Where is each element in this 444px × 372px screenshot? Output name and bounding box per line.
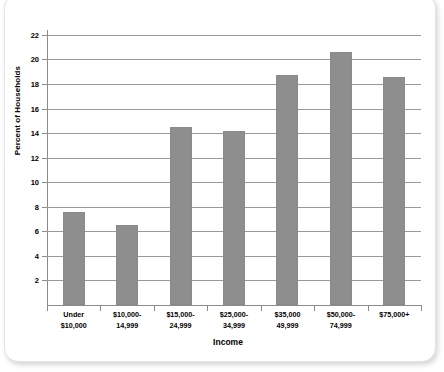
plot-area (47, 30, 421, 305)
bar (276, 75, 298, 305)
x-tick-label-line: 74,999 (310, 321, 372, 332)
y-tick-mark (42, 35, 47, 36)
y-tick-label: 10 (15, 178, 39, 187)
y-tick-mark (42, 231, 47, 232)
gridline (47, 84, 421, 85)
gridline (47, 109, 421, 110)
x-tick-label: $75,000+ (363, 310, 425, 321)
y-tick-mark (42, 280, 47, 281)
y-tick-mark (42, 133, 47, 134)
y-tick-mark (42, 158, 47, 159)
bar (116, 225, 138, 305)
bar (330, 52, 352, 305)
y-axis-line (47, 30, 48, 305)
y-tick-label: 14 (15, 129, 39, 138)
y-tick-mark (42, 182, 47, 183)
y-tick-label: 12 (15, 154, 39, 163)
y-tick-label: 4 (15, 252, 39, 261)
bar-chart-figure: Percent of Households Income 24681012141… (0, 0, 444, 372)
gridline (47, 35, 421, 36)
y-tick-mark (42, 84, 47, 85)
bar (63, 212, 85, 305)
gridline (47, 59, 421, 60)
y-tick-label: 8 (15, 203, 39, 212)
bar (383, 77, 405, 305)
x-axis-title: Income (47, 337, 409, 347)
y-tick-label: 18 (15, 80, 39, 89)
y-tick-label: 20 (15, 55, 39, 64)
x-tick-label-line: $75,000+ (363, 310, 425, 321)
bar (223, 131, 245, 305)
y-tick-label: 16 (15, 105, 39, 114)
x-axis-line (47, 305, 421, 306)
y-tick-mark (42, 109, 47, 110)
y-tick-label: 22 (15, 31, 39, 40)
y-tick-label: 2 (15, 276, 39, 285)
y-tick-label: 6 (15, 227, 39, 236)
y-tick-mark (42, 207, 47, 208)
y-tick-mark (42, 59, 47, 60)
bar (170, 127, 192, 305)
y-tick-mark (42, 256, 47, 257)
